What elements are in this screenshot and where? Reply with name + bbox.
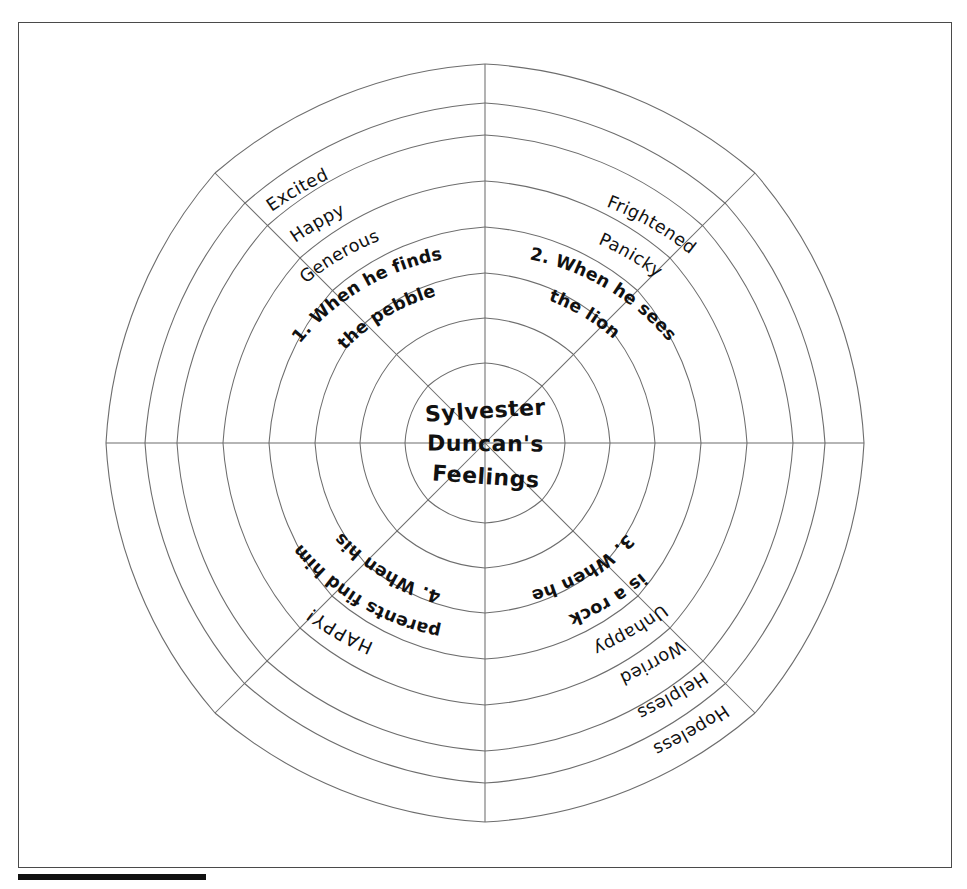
spider-web-diagram: the pebble 1. When he finds Generous Hap… [0,0,967,889]
bottom-rule [18,874,206,880]
web-lines-group [106,64,864,822]
sector-1-feeling-2: Happy [286,199,347,246]
web-spokes [106,64,864,822]
sector-1-feeling-3: Excited [262,164,331,215]
page-canvas: the pebble 1. When he finds Generous Hap… [0,0,967,889]
sector-1-labels: the pebble 1. When he finds Generous Hap… [262,164,443,353]
sector-2-labels: the lion 2. When he sees Panicky Frighte… [528,191,700,344]
sector-4-labels: 4. When his parents find him HAPPY! [289,529,443,659]
sector-3-labels: 3. When he is a rock Unhappy Worried Hel… [530,531,733,760]
spoke-nw [215,173,485,443]
spoke-sw [215,443,485,713]
